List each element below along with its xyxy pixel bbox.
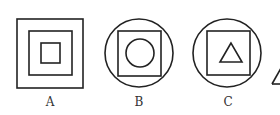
figure-b-label: B: [135, 95, 144, 109]
outer-circle-shape: [105, 19, 173, 87]
figure-a-label: A: [46, 95, 55, 109]
figure-a: [17, 19, 83, 88]
inner-circle-shape: [126, 39, 154, 67]
inner-triangle-shape: [220, 43, 242, 62]
partial-triangle-shape: [272, 68, 280, 84]
figure-b: [105, 19, 173, 87]
outer-square-shape: [17, 19, 83, 88]
figure-c: [193, 19, 261, 87]
partial-figure: [272, 68, 280, 84]
inner-square-shape: [41, 43, 60, 63]
middle-square-shape: [207, 31, 250, 75]
middle-square-shape: [29, 31, 72, 75]
outer-circle-shape: [193, 19, 261, 87]
figure-c-label: C: [223, 95, 232, 109]
